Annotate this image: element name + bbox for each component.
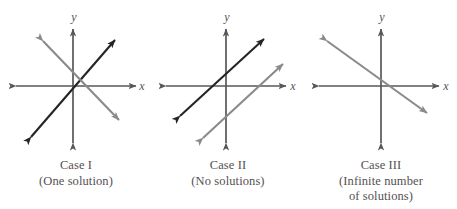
graph-case-2: x y	[152, 8, 304, 156]
y-axis-label: y	[378, 10, 385, 24]
caption-case-2: Case II (No solutions)	[152, 158, 304, 189]
y-axis-label: y	[223, 10, 230, 24]
line-gray-parallel-lower	[203, 64, 283, 138]
case-subtitle: (One solution)	[0, 174, 152, 190]
panel-case-3: x y Case III (Infinite number of solutio…	[305, 0, 457, 209]
case-title: Case II	[152, 158, 304, 174]
case-subtitle-line2: of solutions)	[305, 189, 457, 205]
graph-case-3: x y	[305, 8, 457, 156]
axes-case-3	[319, 29, 439, 143]
panel-case-2: x y Case II (No solutions)	[152, 0, 304, 209]
panel-case-1: x y Case I (One solution)	[0, 0, 152, 209]
graph-case-1: x y	[0, 8, 152, 156]
x-axis-label: x	[289, 79, 296, 93]
y-axis-label: y	[70, 10, 77, 24]
line-gray-coincident	[327, 41, 427, 113]
case-title: Case I	[0, 158, 152, 174]
line-dark-parallel-upper	[180, 39, 264, 116]
x-axis-label: x	[442, 79, 449, 93]
line-gray-negative-slope	[43, 41, 119, 120]
x-axis-label: x	[138, 79, 145, 93]
case-subtitle: (Infinite number	[305, 174, 457, 190]
case-subtitle: (No solutions)	[152, 174, 304, 190]
caption-case-1: Case I (One solution)	[0, 158, 152, 189]
axes-case-2	[166, 29, 286, 143]
case-title: Case III	[305, 158, 457, 174]
caption-case-3: Case III (Infinite number of solutions)	[305, 158, 457, 205]
systems-of-equations-figure: x y Case I (One solution)	[0, 0, 457, 209]
